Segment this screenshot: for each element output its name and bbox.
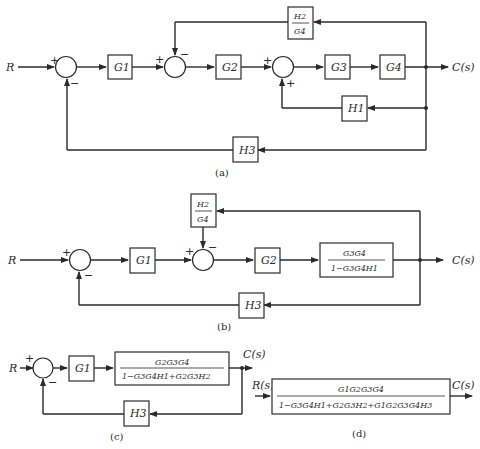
block-label: G3G4 xyxy=(343,249,366,258)
input-label-b: R xyxy=(7,254,16,267)
sign: − xyxy=(208,241,217,254)
input-label-a: R xyxy=(5,61,14,74)
block-label: G2 xyxy=(261,254,277,267)
output-label-a: C(s) xyxy=(452,61,475,74)
block-label: G3 xyxy=(331,61,347,74)
sign: − xyxy=(84,269,93,282)
output-label-d: C(s) xyxy=(452,379,475,392)
diagram-b: R + − G1 + − G2 G3G4 1−G3G4H1 C(s) H2 G4 xyxy=(7,194,475,332)
input-label-d: R(s) xyxy=(251,379,275,392)
block-label: G4 xyxy=(386,61,402,74)
block-label: H2 xyxy=(196,200,209,209)
sign: + xyxy=(25,352,34,365)
sign: − xyxy=(180,48,189,61)
block-label: G4 xyxy=(294,27,305,36)
sign: + xyxy=(263,54,272,67)
caption-c: (c) xyxy=(110,431,124,442)
sign: + xyxy=(155,53,164,66)
block-label: H3 xyxy=(244,299,262,312)
summing-junction-1-c xyxy=(33,358,53,378)
block-label: G1G2G3G4 xyxy=(338,385,384,394)
sign: + xyxy=(50,54,59,67)
diagram-d: R(s) G1G2G3G4 1−G3G4H1+G2G3H2+G1G2G3G4H3… xyxy=(251,379,475,439)
sign: − xyxy=(48,376,57,389)
block-label: H3 xyxy=(129,407,147,420)
block-label: 1−G3G4H1+G2G3H2 xyxy=(122,372,211,381)
diagram-a: R + − G1 + − G2 + + G3 G4 C(s) H2 G4 xyxy=(5,7,475,178)
diagram-c: R + − G1 G2G3G4 1−G3G4H1+G2G3H2 C(s) H3 … xyxy=(8,348,266,442)
sign: − xyxy=(70,77,79,90)
sign: + xyxy=(62,246,71,259)
block-label: G1 xyxy=(75,362,91,375)
output-label-b: C(s) xyxy=(452,254,475,267)
block-label: 1−G3G4H1 xyxy=(331,264,378,273)
block-label: G2G3G4 xyxy=(155,358,189,367)
caption-a: (a) xyxy=(215,167,229,178)
block-label: H2 xyxy=(293,12,306,21)
sign: + xyxy=(185,245,194,258)
input-label-c: R xyxy=(8,362,17,375)
block-label: G1 xyxy=(114,61,130,74)
block-label: G1 xyxy=(136,254,152,267)
block-label: G4 xyxy=(197,215,208,224)
sign: + xyxy=(286,77,295,90)
summing-junction-1-b xyxy=(70,250,91,271)
caption-d: (d) xyxy=(352,428,366,439)
output-label-c: C(s) xyxy=(243,348,266,361)
summing-junction-3-a xyxy=(273,57,294,78)
block-label: 1−G3G4H1+G2G3H2+G1G2G3G4H3 xyxy=(279,401,432,410)
block-label: G2 xyxy=(222,61,238,74)
block-label: H3 xyxy=(238,144,256,157)
caption-b: (b) xyxy=(217,321,231,332)
block-diagram-reduction: R + − G1 + − G2 + + G3 G4 C(s) H2 G4 xyxy=(0,0,480,449)
block-label: H1 xyxy=(347,102,365,115)
